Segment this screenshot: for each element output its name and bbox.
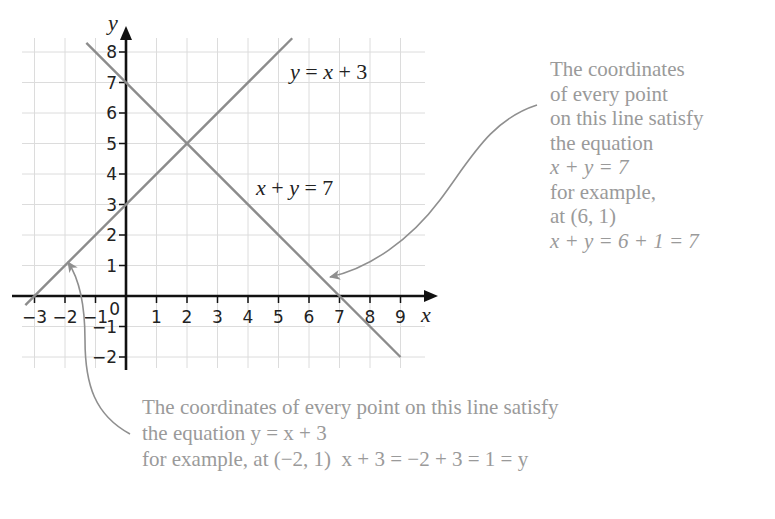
- y-tick-label: 4: [106, 164, 117, 184]
- x-tick-label: −3: [22, 307, 47, 327]
- y-tick-label: 8: [106, 42, 117, 62]
- y-tick-label: 6: [106, 103, 117, 123]
- origin-label: 0: [109, 299, 120, 319]
- x-tick-label: 7: [334, 307, 345, 327]
- y-tick-label: 1: [106, 256, 117, 276]
- note-line: the equation: [550, 131, 653, 155]
- note-line: at (6, 1): [550, 204, 616, 228]
- y-tick-label: 5: [106, 134, 117, 154]
- note-line: x + y = 7: [550, 155, 628, 179]
- x-tick-label: 6: [304, 307, 315, 327]
- y-tick-label: 3: [106, 195, 117, 215]
- note-line: The coordinates: [550, 57, 685, 81]
- note-line: the equation y = x + 3: [142, 421, 327, 445]
- x-tick-label: 2: [182, 307, 193, 327]
- callout-arrow-right: [330, 105, 537, 277]
- x-axis-arrow-icon: [424, 290, 438, 302]
- note-line: for example, at (−2, 1) x + 3 = −2 + 3 =…: [142, 447, 528, 471]
- line-label-y-eq-x-plus-3: y = x + 3: [288, 59, 367, 84]
- y-tick-label: −1: [92, 317, 117, 337]
- x-axis-label: x: [420, 302, 431, 327]
- note-line: on this line satisfy: [550, 106, 703, 130]
- x-tick-label: 1: [151, 307, 162, 327]
- note-line: for example,: [550, 180, 656, 204]
- note-line: x + y = 6 + 1 = 7: [550, 229, 699, 253]
- y-tick-label: 2: [106, 225, 117, 245]
- annotation-x-plus-y-eq-7: The coordinates of every point on this l…: [550, 57, 703, 253]
- x-tick-label: 3: [212, 307, 223, 327]
- x-tick-label: 9: [395, 307, 406, 327]
- y-axis-arrow-icon: [120, 26, 132, 40]
- annotation-y-eq-x-plus-3: The coordinates of every point on this l…: [142, 394, 558, 472]
- x-tick-label: 5: [273, 307, 284, 327]
- note-line: The coordinates of every point on this l…: [142, 395, 558, 419]
- x-tick-label: 4: [243, 307, 254, 327]
- note-line: of every point: [550, 82, 668, 106]
- y-axis-label: y: [106, 10, 118, 35]
- y-tick-label: 7: [106, 73, 117, 93]
- y-tick-label: −2: [92, 347, 117, 367]
- x-tick-label: −2: [52, 307, 77, 327]
- line-label-x-plus-y-eq-7: x + y = 7: [255, 175, 333, 200]
